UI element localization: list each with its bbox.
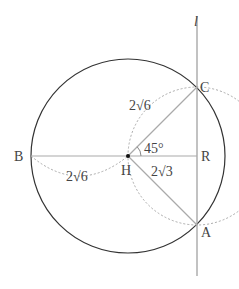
point-r-label: R [201, 149, 211, 164]
line-l-label: l [194, 14, 198, 29]
point-h [126, 154, 130, 158]
point-a-label: A [201, 225, 212, 240]
angle-label: 45° [144, 141, 164, 156]
angle-arc [137, 147, 141, 156]
point-b-label: B [14, 149, 23, 164]
diagram-canvas: l B H R C A 2√6 2√6 2√3 45° [0, 0, 239, 289]
point-c-label: C [200, 80, 209, 95]
length-hr-label: 2√3 [151, 164, 173, 179]
geometry-figure: l B H R C A 2√6 2√6 2√3 45° [0, 0, 239, 289]
point-h-label: H [121, 163, 131, 178]
length-hc-label: 2√6 [129, 98, 151, 113]
length-bh-label: 2√6 [66, 169, 88, 184]
